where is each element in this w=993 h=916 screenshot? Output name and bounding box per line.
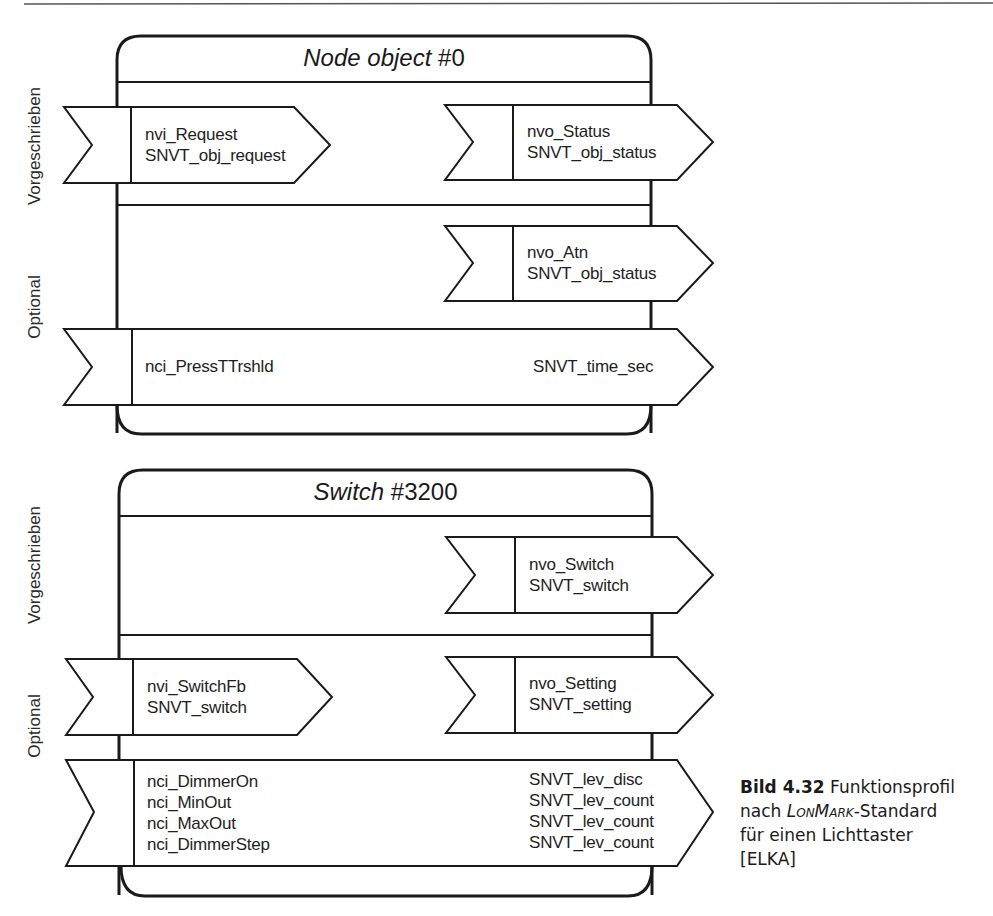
nci-config-types: SNVT_lev_disc SNVT_lev_count SNVT_lev_co… <box>529 769 654 853</box>
nci-name: nci_DimmerOn <box>147 771 270 792</box>
nci-type: SNVT_lev_disc <box>529 769 654 790</box>
caption-line-4: [ELKA] <box>740 847 955 871</box>
nv-name: nvi_Request <box>145 124 285 145</box>
switch-frame-bottom <box>121 866 652 896</box>
caption-number: Bild 4.32 <box>740 777 825 797</box>
caption-text: -Standard <box>854 801 937 821</box>
nci-presstrshld-name: nci_PressTTrshld <box>145 356 273 377</box>
nci-presstrshld-type: SNVT_time_sec <box>533 356 653 377</box>
nci-type: SNVT_lev_count <box>529 832 654 853</box>
nv-type: SNVT_switch <box>147 697 247 718</box>
nci-name: nci_MaxOut <box>147 813 270 834</box>
nvi-request-text: nvi_Request SNVT_obj_request <box>145 124 285 166</box>
nvi-switchfb-text: nvi_SwitchFb SNVT_switch <box>147 676 247 718</box>
nv-type: SNVT_obj_request <box>145 145 285 166</box>
top-rule <box>24 3 993 4</box>
caption-line-3: für einen Lichttaster <box>740 823 955 847</box>
nv-name: nvo_Status <box>527 121 656 142</box>
caption-line-1: Bild 4.32 Funktionsprofil <box>740 775 955 799</box>
caption-brand: LonMark <box>787 801 854 821</box>
nci-type: SNVT_lev_count <box>529 790 654 811</box>
node-object-frame-bottom <box>117 405 651 434</box>
nv-type: SNVT_setting <box>529 694 631 715</box>
nci-config-names: nci_DimmerOn nci_MinOut nci_MaxOut nci_D… <box>147 771 270 855</box>
nv-name: nvo_Atn <box>527 242 656 263</box>
node-object-mandatory-label: Vorgeschrieben <box>25 87 45 205</box>
nv-name: nvi_SwitchFb <box>147 676 247 697</box>
figure-caption: Bild 4.32 Funktionsprofil nach LonMark-S… <box>740 775 955 871</box>
caption-text: nach <box>740 801 787 821</box>
caption-line-2: nach LonMark-Standard <box>740 799 955 823</box>
title-italic: Node object <box>303 44 431 71</box>
caption-text: Funktionsprofil <box>825 777 955 797</box>
switch-optional-label: Optional <box>25 694 45 757</box>
nci-name: nci_MinOut <box>147 792 270 813</box>
switch-title: Switch #3200 <box>119 478 652 506</box>
nv-type: SNVT_obj_status <box>527 263 656 284</box>
nci-type: SNVT_lev_count <box>529 811 654 832</box>
node-object-title: Node object #0 <box>117 44 651 72</box>
nv-type: SNVT_obj_status <box>527 142 656 163</box>
nvo-setting-text: nvo_Setting SNVT_setting <box>529 673 631 715</box>
title-number: #3200 <box>384 478 457 505</box>
title-italic: Switch <box>313 478 384 505</box>
switch-mandatory-label: Vorgeschrieben <box>25 506 45 624</box>
title-number: #0 <box>431 44 464 71</box>
nv-type: SNVT_switch <box>529 575 629 596</box>
nvo-atn-text: nvo_Atn SNVT_obj_status <box>527 242 656 284</box>
nvo-status-text: nvo_Status SNVT_obj_status <box>527 121 656 163</box>
nv-name: nvo_Switch <box>529 554 629 575</box>
nv-name: nvo_Setting <box>529 673 631 694</box>
nci-name: nci_DimmerStep <box>147 834 270 855</box>
nvo-switch-text: nvo_Switch SNVT_switch <box>529 554 629 596</box>
node-object-optional-label: Optional <box>25 275 45 338</box>
